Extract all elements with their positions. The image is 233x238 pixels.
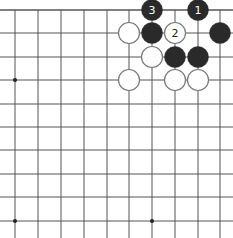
white-stone: 2	[165, 23, 186, 44]
move-number-label: 3	[149, 4, 156, 17]
go-board: 312	[0, 0, 233, 238]
star-point	[13, 78, 17, 82]
grid-lines	[0, 10, 233, 238]
black-stone	[165, 47, 186, 68]
move-number-label: 1	[195, 4, 202, 17]
white-stone	[188, 70, 209, 91]
white-stone	[165, 70, 186, 91]
star-point	[150, 219, 154, 223]
black-stone: 1	[188, 0, 209, 21]
move-number-label: 2	[172, 27, 179, 40]
star-point	[13, 219, 17, 223]
black-stone	[210, 23, 231, 44]
white-stone	[119, 70, 140, 91]
black-stone	[142, 23, 163, 44]
white-stone	[119, 23, 140, 44]
black-stone	[188, 47, 209, 68]
white-stone	[142, 47, 163, 68]
black-stone: 3	[142, 0, 163, 21]
